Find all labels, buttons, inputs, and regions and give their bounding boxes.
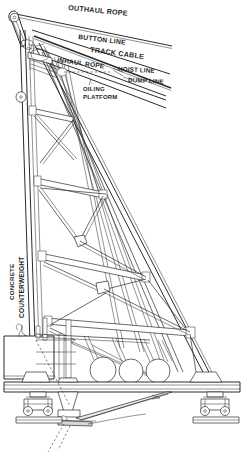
bogie-right-pin (207, 392, 223, 397)
base-girder-web (4, 382, 240, 392)
winch-drum-2 (119, 359, 143, 383)
head-sheave-hub (13, 16, 16, 19)
machinery-post-2 (43, 318, 47, 340)
winch-drum-1 (90, 357, 116, 383)
gusset-front (22, 372, 50, 382)
bogie-left-wheel-2 (44, 407, 53, 416)
side-sheave-wheel (16, 92, 26, 102)
bogie-right-wheel-1 (201, 407, 210, 416)
winch-drum-3 (146, 359, 170, 383)
label-oiling-platform-line2: PLATFORM (83, 94, 117, 100)
bogie-left-wheel-1 (24, 407, 33, 416)
bogie-right-wheel-2 (221, 407, 230, 416)
base-girder (4, 382, 240, 392)
mast-side-sheave (16, 92, 26, 102)
strut-3-node (38, 251, 46, 261)
machinery-post-4 (66, 320, 71, 378)
gusset-back (190, 372, 222, 382)
bogie-left-pin (30, 392, 46, 397)
label-oiling-platform-line1: OILING (83, 86, 105, 92)
cableway-tower-elevation: OUTHAUL ROPE BUTTON LINE TRACK CABLE INH… (0, 0, 249, 457)
gusset-mid (58, 378, 78, 382)
label-counterweight-line2: COUNTERWEIGHT (18, 257, 25, 318)
machinery-post-3 (59, 334, 64, 379)
machinery-post-1 (36, 326, 40, 338)
strut-1-node (29, 106, 36, 115)
drawing-canvas: OUTHAUL ROPE BUTTON LINE TRACK CABLE INH… (0, 0, 249, 457)
strut-2-node (34, 176, 41, 186)
label-counterweight-line1: CONCRETE (8, 264, 15, 300)
